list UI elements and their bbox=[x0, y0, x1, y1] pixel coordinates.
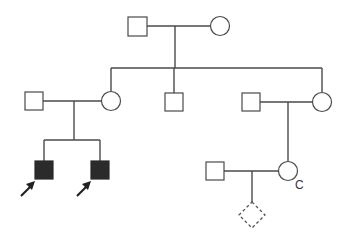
individual-I-1-male bbox=[128, 17, 147, 36]
pedigree-chart: C bbox=[0, 0, 347, 239]
individual-II-1-male bbox=[25, 92, 43, 110]
individual-II-4-male bbox=[242, 93, 260, 111]
individual-II-3-male bbox=[165, 93, 183, 111]
individual-II-2-female bbox=[102, 92, 121, 111]
proband-arrow-icon bbox=[77, 181, 91, 196]
individual-II-5-female bbox=[313, 93, 332, 112]
individual-III-1-affected-male bbox=[35, 161, 53, 179]
individual-IV-1-unknown-diamond bbox=[239, 202, 265, 228]
individual-III-3-male bbox=[206, 162, 224, 180]
individual-I-2-female bbox=[211, 17, 230, 36]
proband-arrow-icon bbox=[21, 181, 35, 196]
individual-III-2-affected-male bbox=[91, 161, 109, 179]
carrier-label: C bbox=[295, 178, 304, 192]
